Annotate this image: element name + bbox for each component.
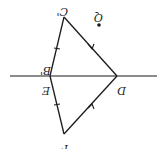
label-d: D [117,84,127,97]
segment-c-b [50,17,64,76]
label-f: F [60,142,69,149]
label-b-prime: B' [40,64,52,77]
arrow-mark-icon [88,104,94,109]
geometry-diagram: C' Q B' E D F [0,0,167,149]
tick-mark-icon [54,104,60,105]
label-e: E [42,84,51,97]
label-q: Q [94,11,103,24]
label-c-prime: C' [57,5,68,18]
tick-mark-icon [54,48,60,49]
